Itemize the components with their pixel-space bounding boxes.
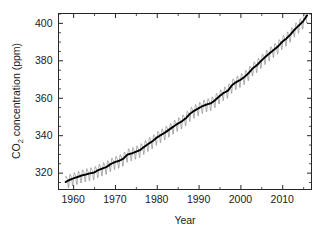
x-tick-label: 1990 <box>187 193 211 205</box>
y-tick-label: 340 <box>35 129 53 141</box>
x-tick-label: 2010 <box>271 193 295 205</box>
y-tick-label: 400 <box>35 17 53 29</box>
y-tick-label: 360 <box>35 92 53 104</box>
chart-canvas: 196019701980199020002010 320340360380400… <box>0 0 330 236</box>
y-tick-label: 380 <box>35 54 53 66</box>
x-tick-label: 1980 <box>145 193 169 205</box>
x-tick-label: 1970 <box>103 193 127 205</box>
co2-concentration-chart: 196019701980199020002010 320340360380400… <box>0 0 330 236</box>
x-tick-label: 1960 <box>61 193 85 205</box>
x-axis-title: Year <box>174 214 196 226</box>
y-tick-label: 320 <box>35 166 53 178</box>
x-tick-label: 2000 <box>229 193 253 205</box>
